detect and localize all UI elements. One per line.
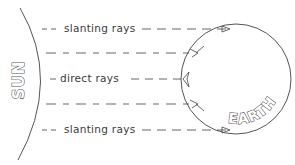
arrowhead-icon xyxy=(190,100,198,108)
ray-lower xyxy=(46,100,204,111)
ray-direct: direct rays xyxy=(50,72,189,87)
earth-label: EARTH xyxy=(228,93,280,127)
arrowhead-icon xyxy=(190,49,198,57)
arrowhead-icon xyxy=(183,72,189,87)
sun-label: SUN xyxy=(10,61,28,100)
ray-upper xyxy=(46,46,204,57)
ray-bottom-slanting: slanting rays xyxy=(42,123,230,135)
ray-top-slanting: slanting rays xyxy=(42,22,230,34)
sun-label-group: SUN xyxy=(10,61,28,100)
sun-earth-rays-diagram: SUN EARTH slanting rays direct rays slan… xyxy=(0,0,295,165)
ray-label-top-slanting: slanting rays xyxy=(64,22,136,34)
ray-label-direct: direct rays xyxy=(60,72,119,84)
ray-label-bottom-slanting: slanting rays xyxy=(64,123,136,135)
